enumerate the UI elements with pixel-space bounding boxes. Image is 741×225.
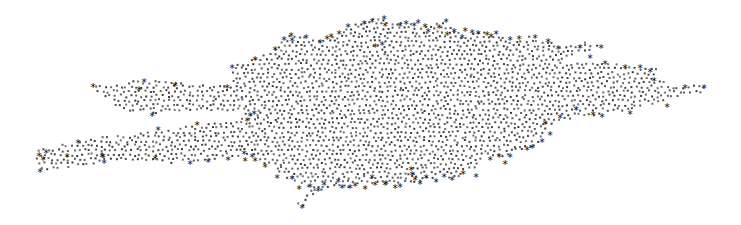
star-marker-icon: ∗	[516, 33, 523, 42]
star-marker-icon: ∗	[362, 183, 369, 192]
star-marker-icon: ∗	[473, 171, 480, 180]
star-marker-icon: ∗	[487, 154, 494, 163]
star-marker-icon: ∗	[598, 42, 605, 51]
star-marker-icon: ∗	[382, 20, 389, 29]
star-marker-icon: ∗	[664, 101, 671, 110]
star-marker-icon: ∗	[225, 154, 232, 163]
star-marker-icon: ∗	[647, 66, 654, 75]
star-marker-icon: ∗	[37, 166, 44, 175]
star-marker-icon: ∗	[423, 172, 430, 181]
star-marker-icon: ∗	[475, 28, 482, 37]
star-marker-icon: ∗	[392, 182, 399, 191]
star-marker-icon: ∗	[307, 181, 314, 190]
star-marker-icon: ∗	[241, 148, 248, 157]
star-marker-icon: ∗	[436, 22, 443, 31]
star-marker-icon: ∗	[507, 34, 514, 43]
star-marker-icon: ∗	[449, 174, 456, 183]
star-marker-icon: ∗	[599, 111, 606, 120]
star-marker-icon: ∗	[462, 25, 469, 34]
star-marker-icon: ∗	[347, 182, 354, 191]
star-marker-icon: ∗	[315, 185, 322, 194]
star-marker-icon: ∗	[555, 43, 562, 52]
star-marker-icon: ∗	[403, 18, 410, 27]
star-marker-icon: ∗	[75, 137, 82, 146]
star-marker-icon: ∗	[289, 35, 296, 44]
star-marker-icon: ∗	[382, 179, 389, 188]
star-marker-icon: ∗	[321, 179, 328, 188]
scatter-plot: ∗∗∗∗∗∗∗∗∗∗∗∗∗∗∗∗∗∗∗∗∗∗∗∗∗∗∗∗∗∗∗∗∗∗∗∗∗∗∗∗…	[0, 0, 741, 225]
star-marker-icon: ∗	[415, 17, 422, 26]
star-marker-icon: ∗	[251, 108, 258, 117]
star-marker-icon: ∗	[493, 28, 500, 37]
star-marker-icon: ∗	[433, 176, 440, 185]
star-marker-icon: ∗	[229, 62, 236, 71]
star-marker-icon: ∗	[408, 164, 415, 173]
star-marker-icon: ∗	[274, 172, 281, 181]
star-marker-icon: ∗	[262, 161, 269, 170]
star-marker-icon: ∗	[345, 21, 352, 30]
star-marker-icon: ∗	[460, 168, 467, 177]
star-marker-icon: ∗	[249, 151, 256, 160]
star-marker-icon: ∗	[545, 36, 552, 45]
star-marker-icon: ∗	[443, 16, 450, 25]
star-marker-icon: ∗	[252, 54, 259, 63]
boundary-star-markers: ∗∗∗∗∗∗∗∗∗∗∗∗∗∗∗∗∗∗∗∗∗∗∗∗∗∗∗∗∗∗∗∗∗∗∗∗∗∗∗∗…	[36, 13, 708, 211]
star-marker-icon: ∗	[682, 82, 689, 91]
star-marker-icon: ∗	[496, 151, 503, 160]
star-marker-icon: ∗	[451, 26, 458, 35]
star-marker-icon: ∗	[425, 26, 432, 35]
star-marker-icon: ∗	[587, 52, 594, 61]
star-marker-icon: ∗	[205, 156, 212, 165]
star-marker-icon: ∗	[172, 80, 179, 89]
star-marker-icon: ∗	[627, 108, 634, 117]
star-marker-icon: ∗	[651, 75, 658, 84]
star-marker-icon: ∗	[149, 110, 156, 119]
star-marker-icon: ∗	[99, 151, 106, 160]
star-marker-icon: ∗	[542, 118, 549, 127]
star-marker-icon: ∗	[532, 32, 539, 41]
star-marker-icon: ∗	[577, 42, 584, 51]
star-marker-icon: ∗	[441, 171, 448, 180]
star-marker-icon: ∗	[701, 82, 708, 91]
star-marker-icon: ∗	[303, 32, 310, 41]
star-marker-icon: ∗	[328, 31, 335, 40]
star-marker-icon: ∗	[36, 150, 43, 159]
star-marker-icon: ∗	[90, 81, 97, 90]
star-marker-icon: ∗	[296, 183, 303, 192]
star-marker-icon: ∗	[369, 172, 376, 181]
star-marker-icon: ∗	[152, 153, 159, 162]
star-marker-icon: ∗	[557, 112, 564, 121]
star-marker-icon: ∗	[317, 37, 324, 46]
star-marker-icon: ∗	[155, 124, 162, 133]
star-marker-icon: ∗	[372, 41, 379, 50]
star-marker-icon: ∗	[136, 84, 143, 93]
star-marker-icon: ∗	[524, 144, 531, 153]
star-marker-icon: ∗	[194, 119, 201, 128]
star-marker-icon: ∗	[602, 58, 609, 67]
star-marker-icon: ∗	[336, 28, 343, 37]
star-marker-icon: ∗	[444, 29, 451, 38]
star-marker-icon: ∗	[379, 39, 386, 48]
star-marker-icon: ∗	[64, 151, 71, 160]
star-marker-icon: ∗	[502, 158, 509, 167]
star-marker-icon: ∗	[547, 129, 554, 138]
star-marker-icon: ∗	[289, 173, 296, 182]
star-marker-icon: ∗	[281, 34, 288, 43]
star-marker-icon: ∗	[224, 82, 231, 91]
star-marker-icon: ∗	[637, 62, 644, 71]
star-marker-icon: ∗	[272, 44, 279, 53]
star-marker-icon: ∗	[361, 18, 368, 27]
star-marker-icon: ∗	[187, 158, 194, 167]
point-cloud-canvas: ∗∗∗∗∗∗∗∗∗∗∗∗∗∗∗∗∗∗∗∗∗∗∗∗∗∗∗∗∗∗∗∗∗∗∗∗∗∗∗∗…	[0, 0, 741, 225]
star-marker-icon: ∗	[369, 16, 376, 25]
star-marker-icon: ∗	[335, 176, 342, 185]
star-marker-icon: ∗	[590, 109, 597, 118]
star-marker-icon: ∗	[622, 62, 629, 71]
star-marker-icon: ∗	[573, 104, 580, 113]
star-marker-icon: ∗	[299, 202, 306, 211]
star-marker-icon: ∗	[539, 136, 546, 145]
